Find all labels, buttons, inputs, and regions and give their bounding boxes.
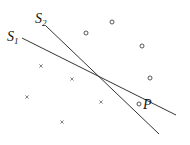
cross-point-icon [99, 100, 102, 103]
labels: S1 S2 P [7, 11, 152, 112]
point-label-p: P [142, 97, 152, 112]
circle-point-icon [84, 31, 88, 35]
separator-line-s2 [46, 26, 159, 134]
positive-points [84, 20, 152, 106]
circle-point-icon [140, 44, 144, 48]
cross-point-icon [25, 95, 28, 98]
circle-point-icon [148, 76, 152, 80]
cross-point-icon [60, 120, 63, 123]
circle-point-icon [137, 102, 141, 106]
circle-point-icon [110, 20, 114, 24]
separator-lines [22, 26, 176, 134]
cross-point-icon [39, 64, 42, 67]
diagram-canvas: S1 S2 P [0, 0, 190, 145]
line-label-s2: S2 [35, 11, 47, 28]
cross-point-icon [70, 77, 73, 80]
line-label-s1: S1 [7, 29, 19, 46]
negative-points [25, 64, 102, 123]
